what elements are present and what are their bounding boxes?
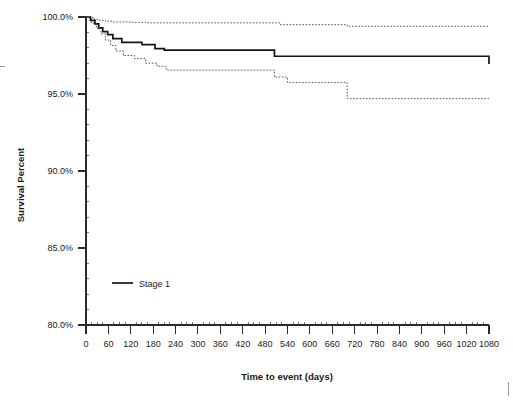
x-tick-label: 1080 bbox=[479, 339, 499, 349]
x-tick-label: 420 bbox=[235, 339, 250, 349]
x-axis-title: Time to event (days) bbox=[241, 371, 333, 382]
x-tick-label: 660 bbox=[325, 339, 340, 349]
series-path-0 bbox=[86, 17, 489, 64]
legend: Stage 1 bbox=[112, 279, 170, 289]
x-tick-label: 120 bbox=[123, 339, 138, 349]
x-tick-label: 720 bbox=[347, 339, 362, 349]
series-path-2 bbox=[86, 17, 489, 99]
y-tick-label: 90.0% bbox=[47, 166, 73, 176]
x-tick-label: 360 bbox=[213, 339, 228, 349]
x-tick-label: 240 bbox=[168, 339, 183, 349]
x-axis-ticks: 0601201802403003604204805406006607207808… bbox=[83, 322, 499, 349]
series-paths bbox=[86, 17, 489, 99]
y-tick-label: 85.0% bbox=[47, 243, 73, 253]
y-axis-title: Survival Percent bbox=[15, 147, 26, 222]
y-tick-label: 95.0% bbox=[47, 89, 73, 99]
survival-chart: 100.0%95.0%90.0%85.0%80.0% 0601201802403… bbox=[0, 0, 513, 402]
x-tick-label: 1020 bbox=[457, 339, 477, 349]
y-tick-label: 80.0% bbox=[47, 320, 73, 330]
x-tick-label: 180 bbox=[146, 339, 161, 349]
x-tick-label: 960 bbox=[437, 339, 452, 349]
x-tick-label: 480 bbox=[258, 339, 273, 349]
y-tick-label: 100.0% bbox=[42, 12, 73, 22]
x-tick-label: 900 bbox=[414, 339, 429, 349]
km-plot-svg: 100.0%95.0%90.0%85.0%80.0% 0601201802403… bbox=[0, 0, 513, 402]
x-tick-label: 60 bbox=[103, 339, 113, 349]
legend-label-stage-1: Stage 1 bbox=[139, 279, 170, 289]
series-path-1 bbox=[86, 17, 489, 26]
x-tick-label: 780 bbox=[370, 339, 385, 349]
x-tick-label: 300 bbox=[190, 339, 205, 349]
x-tick-label: 840 bbox=[392, 339, 407, 349]
x-tick-label: 0 bbox=[83, 339, 88, 349]
y-axis-ticks: 100.0%95.0%90.0%85.0%80.0% bbox=[42, 12, 89, 330]
x-tick-label: 540 bbox=[280, 339, 295, 349]
x-tick-label: 600 bbox=[302, 339, 317, 349]
edge-marks bbox=[0, 66, 508, 396]
